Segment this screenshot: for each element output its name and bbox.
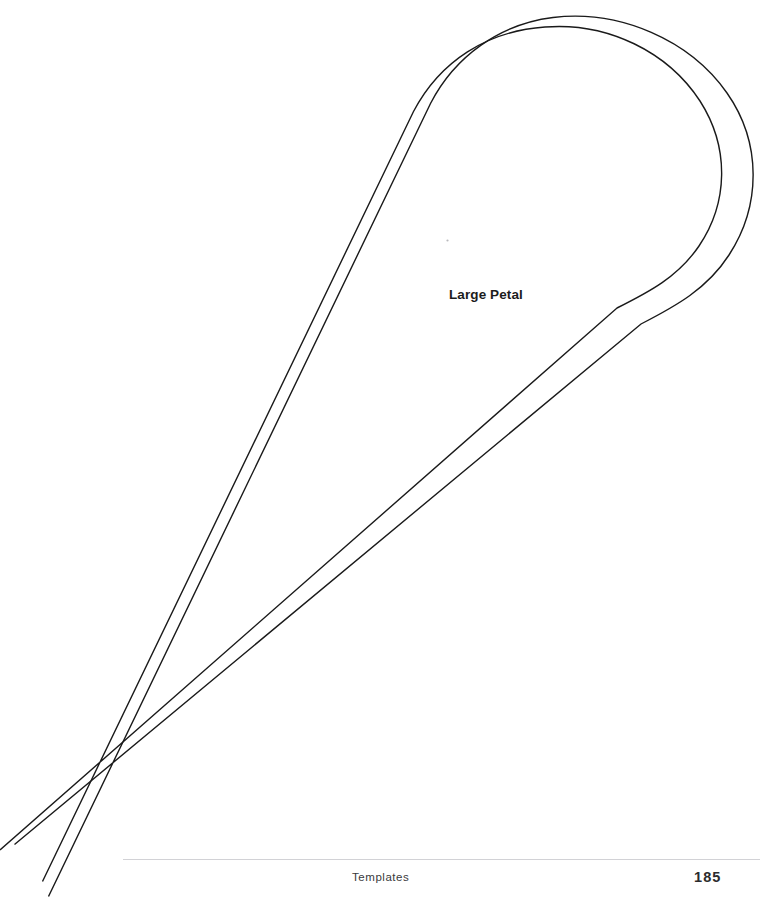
print-speck-artifact [446, 239, 448, 241]
page-footer: Templates 185 [0, 872, 780, 892]
footer-section-label: Templates [352, 872, 409, 884]
footer-page-number: 185 [694, 870, 722, 885]
large-petal-template-drawing [0, 0, 780, 924]
template-page: Large Petal Templates 185 [0, 0, 780, 924]
footer-divider [123, 859, 760, 860]
large-petal-seam-line [0, 26, 722, 881]
piece-label: Large Petal [449, 288, 523, 302]
large-petal-cut-line [15, 16, 754, 896]
